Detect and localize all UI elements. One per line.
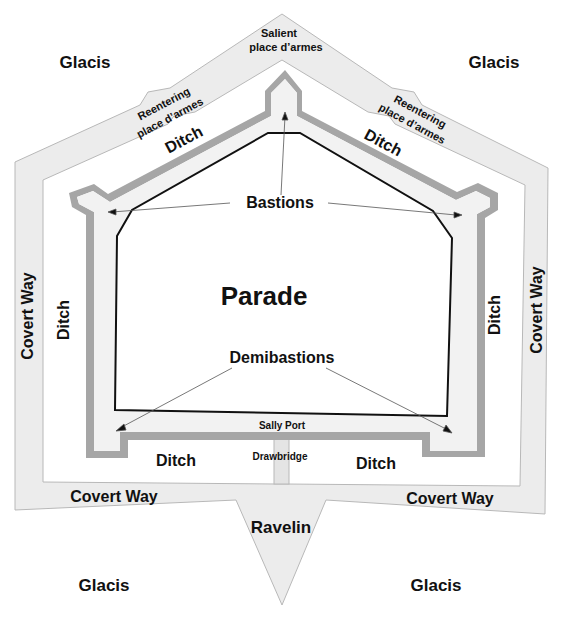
glacis-top-right-label: Glacis (468, 54, 519, 71)
demibastions-label: Demibastions (230, 350, 335, 366)
ditch-right-label: Ditch (487, 295, 503, 335)
drawbridge-label: Drawbridge (252, 452, 307, 462)
sally-port-label: Sally Port (259, 421, 305, 431)
covert-way-right-label: Covert Way (529, 266, 545, 353)
covert-way-left-label: Covert Way (20, 272, 36, 359)
glacis-bottom-left-label: Glacis (78, 577, 129, 594)
salient-place-darmes-label-line2: place d’armes (249, 42, 322, 53)
ditch-left-label: Ditch (56, 300, 72, 340)
glacis-bottom-right-label: Glacis (410, 577, 461, 594)
bastions-label: Bastions (246, 195, 314, 211)
ravelin-label: Ravelin (251, 519, 311, 536)
parade-label: Parade (221, 283, 308, 309)
glacis-top-left-label: Glacis (59, 54, 110, 71)
ditch-bottom-left-label: Ditch (156, 453, 196, 469)
salient-place-darmes-label-line1: Salient (261, 28, 297, 39)
ditch-bottom-right-label: Ditch (356, 456, 396, 472)
covert-way-bottom-right-label: Covert Way (406, 491, 493, 507)
covert-way-bottom-left-label: Covert Way (70, 489, 157, 505)
